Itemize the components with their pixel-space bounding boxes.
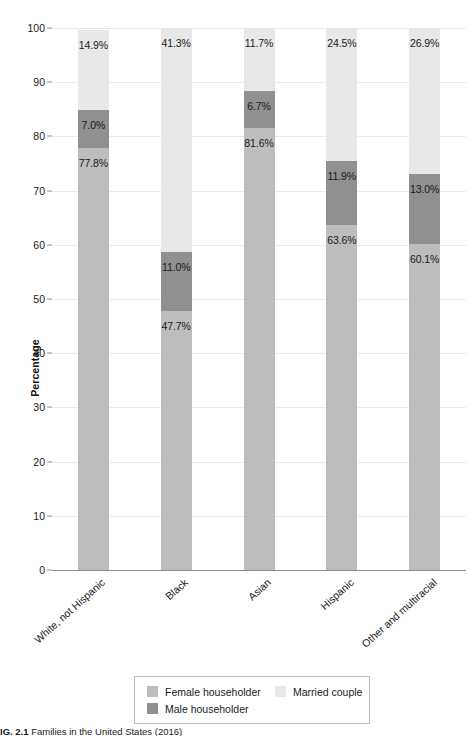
legend-item[interactable]: Female householder — [147, 686, 275, 698]
legend: Female householderMarried coupleMale hou… — [134, 676, 370, 724]
bar-segment[interactable]: 11.7% — [244, 28, 275, 91]
axis-baseline — [52, 570, 466, 571]
bar-segment[interactable]: 14.9% — [78, 30, 109, 111]
bar-value-label: 26.9% — [410, 37, 439, 49]
legend-item[interactable]: Male householder — [147, 703, 275, 715]
legend-label: Married couple — [293, 686, 362, 698]
stacked-bar[interactable]: 77.8%7.0%14.9% — [78, 30, 109, 570]
x-tick-label-text: Other and multiracial — [359, 576, 439, 650]
bar-value-label: 77.8% — [79, 157, 108, 169]
y-tick-label: 50 — [33, 293, 45, 305]
y-tick-label: 30 — [33, 401, 45, 413]
bar-segment[interactable]: 7.0% — [78, 110, 109, 148]
bar-segment[interactable]: 81.6% — [244, 128, 275, 570]
y-tick-label: 70 — [33, 185, 45, 197]
bar-value-label: 41.3% — [162, 37, 191, 49]
legend-swatch-icon — [275, 686, 286, 697]
legend-swatch-icon — [147, 686, 158, 697]
x-tick-label-text: White, not Hispanic — [32, 576, 107, 645]
bar-value-label: 60.1% — [410, 253, 439, 265]
legend-item[interactable]: Married couple — [275, 686, 362, 698]
bar-segment[interactable]: 11.9% — [326, 161, 357, 225]
bar-value-label: 14.9% — [79, 39, 108, 51]
stacked-bar[interactable]: 63.6%11.9%24.5% — [326, 28, 357, 570]
bar-segment[interactable]: 77.8% — [78, 148, 109, 570]
caption-number: IG. 2.1 — [0, 726, 29, 736]
bar-segment[interactable]: 63.6% — [326, 225, 357, 570]
bar-value-label: 11.9% — [328, 170, 357, 182]
bar-segment[interactable]: 13.0% — [409, 174, 440, 244]
bar-value-label: 13.0% — [410, 183, 439, 195]
y-tick-label: 80 — [33, 130, 45, 142]
figure: Percentage 0102030405060708090100 77.8%7… — [0, 0, 471, 736]
bar-value-label: 81.6% — [244, 137, 273, 149]
bar-value-label: 7.0% — [82, 119, 106, 131]
y-tick-label: 90 — [33, 76, 45, 88]
bar-value-label: 47.7% — [162, 320, 191, 332]
bar-value-label: 24.5% — [327, 37, 356, 49]
bar-value-label: 6.7% — [247, 100, 271, 112]
stacked-bar[interactable]: 47.7%11.0%41.3% — [161, 28, 192, 570]
bar-segment[interactable]: 24.5% — [326, 28, 357, 161]
bar-value-label: 63.6% — [327, 234, 356, 246]
y-tick-label: 40 — [33, 347, 45, 359]
bar-segment[interactable]: 60.1% — [409, 244, 440, 570]
bar-segment[interactable]: 11.0% — [161, 252, 192, 312]
stacked-bar[interactable]: 60.1%13.0%26.9% — [409, 28, 440, 570]
legend-label: Female householder — [165, 686, 261, 698]
y-tick-label: 60 — [33, 239, 45, 251]
bar-segment[interactable]: 47.7% — [161, 311, 192, 570]
figure-caption: IG. 2.1 Families in the United States (2… — [0, 726, 471, 736]
y-tick-label: 0 — [39, 564, 45, 576]
legend-swatch-icon — [147, 703, 158, 714]
x-tick-label-text: Asian — [245, 576, 273, 602]
y-tick-label: 20 — [33, 456, 45, 468]
bar-segment[interactable]: 6.7% — [244, 91, 275, 127]
x-tick-label-text: Hispanic — [318, 576, 356, 612]
legend-label: Male householder — [165, 703, 248, 715]
stacked-bar[interactable]: 81.6%6.7%11.7% — [244, 28, 275, 570]
y-tick-label: 10 — [33, 510, 45, 522]
bar-segment[interactable]: 26.9% — [409, 28, 440, 174]
bar-value-label: 11.0% — [162, 261, 191, 273]
bar-segment[interactable]: 41.3% — [161, 28, 192, 252]
bar-value-label: 11.7% — [245, 37, 274, 49]
y-tick-label: 100 — [27, 22, 45, 34]
x-tick-label-text: Black — [163, 576, 190, 602]
caption-text: Families in the United States (2016) — [31, 726, 182, 736]
plot-area: 0102030405060708090100 77.8%7.0%14.9%47.… — [52, 28, 466, 570]
